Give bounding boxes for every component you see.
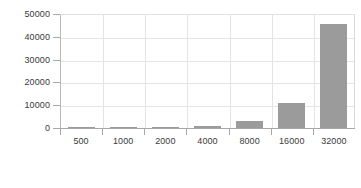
x-tick-label-16000: 16000 (279, 136, 305, 146)
x-tick-label-4000: 4000 (197, 136, 217, 146)
x-tick-label-1000: 1000 (113, 136, 133, 146)
bar-8000 (236, 121, 263, 128)
x-tick-mark-4 (229, 128, 230, 135)
x-axis-line (55, 128, 355, 129)
bar-chart: 0 10000 20000 30000 40000 50000 (0, 0, 361, 188)
x-tick-label-2000: 2000 (155, 136, 175, 146)
y-tick-label-10000: 10000 (24, 100, 50, 110)
x-tick-mark-6 (313, 128, 314, 135)
x-tick-label-8000: 8000 (239, 136, 259, 146)
y-tick-label-50000: 50000 (24, 9, 50, 19)
y-tick-label-20000: 20000 (24, 77, 50, 87)
y-axis: 0 10000 20000 30000 40000 50000 (0, 0, 50, 188)
y-tick-label-40000: 40000 (24, 32, 50, 42)
x-tick-label-500: 500 (73, 136, 88, 146)
y-tick-label-30000: 30000 (24, 55, 50, 65)
bar-16000 (278, 103, 305, 128)
x-tick-label-32000: 32000 (321, 136, 347, 146)
x-tick-mark-2 (144, 128, 145, 135)
y-tick-mark-30000 (53, 60, 60, 61)
bars-layer (60, 14, 355, 128)
x-tick-mark-1 (102, 128, 103, 135)
x-tick-mark-3 (186, 128, 187, 135)
y-tick-label-0: 0 (45, 123, 50, 133)
y-tick-mark-20000 (53, 82, 60, 83)
x-tick-mark-5 (271, 128, 272, 135)
y-tick-mark-50000 (53, 14, 60, 15)
y-tick-mark-40000 (53, 37, 60, 38)
y-tick-mark-10000 (53, 105, 60, 106)
x-tick-mark-0 (60, 128, 61, 135)
bar-32000 (320, 24, 347, 128)
